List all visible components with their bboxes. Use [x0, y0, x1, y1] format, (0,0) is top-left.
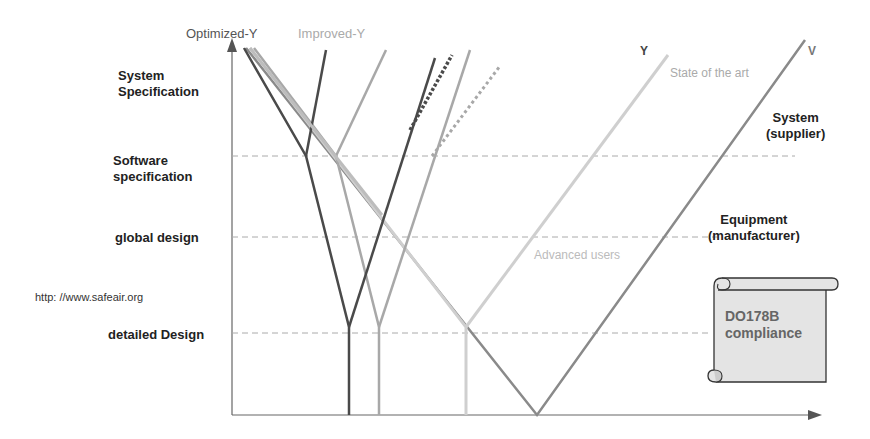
state-of-art-y-line: [250, 48, 668, 415]
do178b-compliance-text: DO178B compliance: [725, 308, 802, 342]
level-detailed-design: detailed Design: [108, 327, 204, 343]
level-system-specification: System Specification: [118, 68, 199, 99]
role-system-supplier: System (supplier): [766, 110, 825, 141]
advanced-users-label: Advanced users: [534, 248, 620, 262]
optimized-y-line: [244, 48, 452, 415]
level-software-specification: Software specification: [113, 153, 192, 184]
level-global-design: global design: [115, 230, 199, 246]
y-label: Y: [640, 44, 648, 58]
level-gridlines: [232, 156, 795, 333]
v-shadow-line: [250, 48, 382, 215]
optimized-y-label: Optimized-Y: [186, 26, 258, 42]
source-url: http: //www.safeair.org: [35, 291, 143, 304]
role-equipment-manufacturer: Equipment (manufacturer): [708, 212, 800, 243]
v-label: V: [808, 44, 816, 58]
improved-y-label: Improved-Y: [298, 26, 365, 42]
x-axis-arrow-icon: [808, 410, 822, 420]
state-of-art-label: State of the art: [670, 66, 749, 80]
